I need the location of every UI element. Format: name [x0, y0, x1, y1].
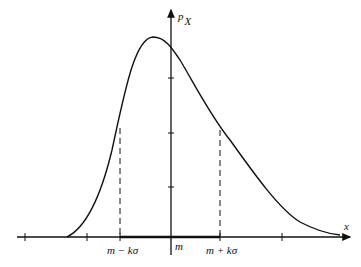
left-bound-label: m − kσ [107, 244, 138, 256]
density-diagram [0, 0, 361, 267]
right-bound-label: m + kσ [206, 244, 237, 256]
x-axis-label: x [344, 220, 349, 232]
mean-label: m [175, 240, 183, 252]
density-curve [67, 37, 340, 237]
y-axis-label: pX [178, 10, 190, 22]
